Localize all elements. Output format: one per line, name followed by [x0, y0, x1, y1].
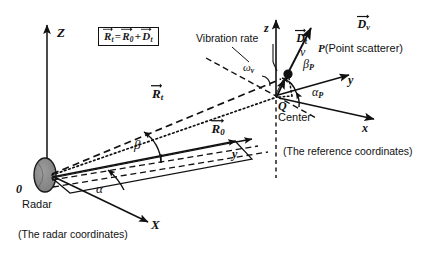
global-x-axis-label: X	[151, 218, 160, 231]
angle-alpha-label: α	[96, 182, 103, 195]
radar-label: Radar	[22, 199, 52, 210]
angle-alpha-arc	[108, 170, 124, 190]
global-z-axis-label: Z	[57, 26, 65, 39]
local-y-axis-label: y	[348, 74, 353, 86]
vector-D-t-line	[273, 44, 285, 96]
point-scatterer-paren: (Point scatterer)	[325, 42, 403, 54]
center-label: Center	[278, 112, 311, 123]
angle-beta-label: β	[134, 138, 140, 151]
vector-D-t-label: Dt	[296, 32, 307, 44]
global-origin-label: 0	[16, 183, 22, 195]
angle-omega-v-label: ωv	[243, 62, 254, 73]
radar-coordinates-label: (The radar coordinates)	[18, 229, 128, 240]
local-x-axis-label: x	[362, 122, 368, 134]
formula-plus: +	[134, 30, 142, 42]
vector-R-t-label: Rt	[152, 87, 163, 100]
global-y-axis-label: y	[232, 148, 237, 160]
angle-alpha-P-label: αP	[312, 86, 323, 98]
angle-beta-P-label: βP	[303, 58, 314, 70]
vector-R-0-label: R0	[212, 122, 225, 135]
vibration-rate-label: Vibration rate	[196, 33, 258, 44]
point-scatterer-label: P(Point scatterer)	[318, 43, 403, 54]
vector-D-v-label: Dv	[358, 18, 370, 30]
local-z-axis-label: z	[264, 22, 269, 34]
point-scatterer-letter: P	[318, 42, 325, 54]
point-scatterer-dot	[283, 69, 292, 78]
formula-term2: Dt	[142, 30, 152, 42]
formula-box: Rt=R0+Dt	[98, 27, 159, 46]
vector-R-0-line	[52, 97, 277, 175]
formula-lhs: Rt	[104, 30, 114, 42]
formula-term1: R0	[122, 30, 133, 42]
reference-coordinates-label: (The reference coordinates)	[283, 146, 413, 157]
figure-canvas: Rt=R0+Dt Z X 0 Radar (The radar coordina…	[0, 0, 425, 254]
angle-alpha-P-arc	[296, 92, 299, 107]
global-y-axis	[236, 139, 252, 142]
